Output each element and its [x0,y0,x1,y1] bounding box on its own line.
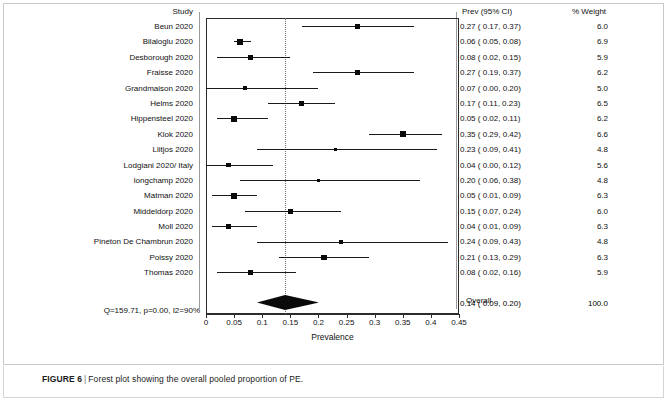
stats-row: 0.06 ( 0.05, 0.08)6.9 [460,34,660,49]
estimate-value: 0.05 ( 0.02, 0.11) [460,111,565,126]
point-estimate-marker [355,70,360,75]
stats-row-list: 0.27 ( 0.17, 0.37)6.00.06 ( 0.05, 0.08)6… [460,19,660,281]
confidence-interval-line [313,72,414,73]
stats-row: 0.23 ( 0.09, 0.41)4.8 [460,142,660,157]
point-estimate-marker [299,101,305,107]
weight-value: 5.0 [572,81,608,96]
estimate-value: 0.15 ( 0.07, 0.24) [460,204,565,219]
axis-tick-label: 0.25 [339,318,355,327]
stats-row: 0.35 ( 0.29, 0.42)6.6 [460,127,660,142]
stats-row: 0.08 ( 0.02, 0.15)5.9 [460,50,660,65]
axis-tick-label: 0.4 [425,318,436,327]
stats-row: 0.07 ( 0.00, 0.20)5.0 [460,81,660,96]
axis-tick-label: 0.45 [451,318,467,327]
estimate-value: 0.24 ( 0.09, 0.43) [460,234,565,249]
stats-row: 0.27 ( 0.19, 0.37)6.2 [460,65,660,80]
stats-row: 0.04 ( 0.00, 0.12)5.6 [460,158,660,173]
stats-header-row: Prev (95% CI) % Weight [460,4,660,19]
stats-row: 0.21 ( 0.13, 0.29)6.3 [460,250,660,265]
weight-value: 4.8 [572,234,608,249]
figure-container: Study Beun 2020Bilaloglu 2020Desborough … [0,0,668,403]
stats-row: 0.08 ( 0.02, 0.16)5.9 [460,265,660,280]
estimate-value: 0.06 ( 0.05, 0.08) [460,34,565,49]
weight-value: 6.5 [572,96,608,111]
estimate-value: 0.35 ( 0.29, 0.42) [460,127,565,142]
summary-diamond [257,295,319,310]
estimate-value: 0.04 ( 0.00, 0.12) [460,158,565,173]
weight-column-header: % Weight [572,4,612,19]
x-axis-line [206,314,459,315]
estimate-value: 0.27 ( 0.17, 0.37) [460,19,565,34]
weight-value: 6.2 [572,65,608,80]
confidence-interval-line [257,149,437,150]
estimate-value: 0.20 ( 0.06, 0.38) [460,173,565,188]
point-estimate-marker [317,179,321,183]
point-estimate-marker [226,163,231,168]
point-estimate-marker [288,209,293,214]
stats-row: 0.05 ( 0.01, 0.09)6.3 [460,188,660,203]
point-estimate-marker [334,148,338,152]
estimate-value: 0.07 ( 0.00, 0.20) [460,81,565,96]
axis-tick-label: 0.3 [369,318,380,327]
weight-value: 6.3 [572,219,608,234]
estimate-value: 0.08 ( 0.02, 0.15) [460,50,565,65]
estimate-value: 0.23 ( 0.09, 0.41) [460,142,565,157]
weight-value: 5.9 [572,50,608,65]
weight-value: 4.8 [572,173,608,188]
forest-plot: Study Beun 2020Bilaloglu 2020Desborough … [4,4,665,366]
point-estimate-marker [226,224,231,229]
axis-tick-label: 0.35 [395,318,411,327]
estimate-value: 0.05 ( 0.01, 0.09) [460,188,565,203]
summary-diamond-shape [257,295,319,310]
confidence-interval-line [240,180,420,181]
estimate-value: 0.08 ( 0.02, 0.16) [460,265,565,280]
point-estimate-marker [321,255,326,260]
point-estimate-marker [231,116,236,121]
weight-value: 5.6 [572,158,608,173]
summary-weight-value: 100.0 [572,296,608,311]
estimate-value: 0.27 ( 0.19, 0.37) [460,65,565,80]
point-estimate-marker [248,55,253,60]
axis-tick-label: 0.05 [226,318,242,327]
axis-tick-label: 0.1 [257,318,268,327]
confidence-interval-line [212,226,257,227]
weight-value: 6.0 [572,204,608,219]
point-estimate-marker [237,39,243,45]
figure-number: FIGURE 6 [42,374,82,384]
weight-value: 6.2 [572,111,608,126]
confidence-interval-line [257,242,448,243]
study-column-header: Study [4,4,198,19]
caption-body: Forest plot showing the overall pooled p… [88,374,303,384]
summary-estimate-value: 0.14 ( 0.09, 0.20) [460,296,565,311]
stats-row: 0.05 ( 0.02, 0.11)6.2 [460,111,660,126]
figure-plot-frame: Study Beun 2020Bilaloglu 2020Desborough … [3,3,664,365]
weight-value: 4.8 [572,142,608,157]
stats-row: 0.04 ( 0.01, 0.09)6.3 [460,219,660,234]
weight-value: 6.6 [572,127,608,142]
x-axis-title: Prevalence [206,332,459,342]
figure-caption-frame: FIGURE 6|Forest plot showing the overall… [3,366,664,398]
weight-value: 6.3 [572,188,608,203]
figure-caption: FIGURE 6|Forest plot showing the overall… [42,374,303,384]
confidence-interval-line [245,211,341,212]
weight-value: 6.3 [572,250,608,265]
estimate-value: 0.04 ( 0.01, 0.09) [460,219,565,234]
stats-column: Prev (95% CI) % Weight 0.27 ( 0.17, 0.37… [460,4,660,281]
stats-row: 0.24 ( 0.09, 0.43)4.8 [460,234,660,249]
weight-value: 6.9 [572,34,608,49]
confidence-interval-line [206,165,273,166]
point-estimate-marker [400,131,406,137]
point-estimate-marker [231,193,236,198]
estimate-value: 0.21 ( 0.13, 0.29) [460,250,565,265]
estimate-value: 0.17 ( 0.11, 0.23) [460,96,565,111]
stats-row: 0.15 ( 0.07, 0.24)6.0 [460,204,660,219]
point-estimate-marker [355,24,360,29]
confidence-interval-line [217,272,296,273]
weight-value: 5.9 [572,265,608,280]
stats-row: 0.17 ( 0.11, 0.23)6.5 [460,96,660,111]
axis-tick-label: 0 [204,318,208,327]
stats-row: 0.27 ( 0.17, 0.37)6.0 [460,19,660,34]
axis-tick-label: 0.2 [313,318,324,327]
estimate-column-header: Prev (95% CI) [462,4,512,19]
weight-value: 6.0 [572,19,608,34]
